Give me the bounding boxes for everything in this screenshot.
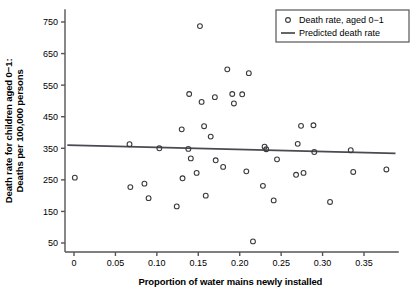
scatter-point bbox=[127, 142, 132, 147]
x-tick-label: 0.25 bbox=[272, 258, 290, 268]
scatter-point bbox=[232, 101, 237, 106]
y-axis-title-line2: Deaths per 100,000 persons bbox=[14, 69, 25, 192]
scatter-point bbox=[311, 123, 316, 128]
x-tick-label: 0 bbox=[71, 258, 76, 268]
x-tick-label: 0.35 bbox=[355, 258, 373, 268]
scatter-point bbox=[179, 127, 184, 132]
y-axis-title-line1: Death rate for children aged 0−1: bbox=[3, 59, 14, 204]
scatter-point bbox=[128, 185, 133, 190]
scatter-point bbox=[146, 196, 151, 201]
scatter-point bbox=[351, 170, 356, 175]
y-tick-label: 250 bbox=[43, 175, 58, 185]
legend-label-death-rate: Death rate, aged 0−1 bbox=[299, 15, 384, 25]
x-tick-label: 0.20 bbox=[231, 258, 249, 268]
scatter-point bbox=[187, 92, 192, 97]
legend-label-predicted-death-rate: Predicted death rate bbox=[299, 28, 380, 38]
scatter-point bbox=[202, 124, 207, 129]
scatter-point bbox=[203, 193, 208, 198]
x-axis-ticks: 00.050.100.150.200.250.300.35 bbox=[71, 252, 372, 268]
scatter-point bbox=[225, 67, 230, 72]
y-tick-label: 750 bbox=[43, 17, 58, 27]
scatter-plot: Death rate for children aged 0−1:Deaths … bbox=[0, 0, 413, 291]
scatter-point bbox=[246, 71, 251, 76]
y-axis-ticks: 50150250350450550650750 bbox=[43, 17, 65, 248]
data-points bbox=[72, 24, 388, 244]
scatter-point bbox=[180, 176, 185, 181]
scatter-point bbox=[174, 204, 179, 209]
scatter-point bbox=[295, 141, 300, 146]
scatter-point bbox=[72, 175, 77, 180]
scatter-point bbox=[221, 165, 226, 170]
x-axis-title-text: Proportion of water mains newly installe… bbox=[138, 276, 322, 287]
y-tick-label: 450 bbox=[43, 112, 58, 122]
scatter-point bbox=[208, 134, 213, 139]
scatter-point bbox=[299, 123, 304, 128]
y-tick-label: 650 bbox=[43, 49, 58, 59]
scatter-point bbox=[199, 99, 204, 104]
scatter-point bbox=[194, 171, 199, 176]
y-tick-label: 350 bbox=[43, 144, 58, 154]
scatter-point bbox=[240, 92, 245, 97]
scatter-point bbox=[271, 198, 276, 203]
scatter-point bbox=[328, 200, 333, 205]
scatter-point bbox=[212, 95, 217, 100]
y-tick-label: 50 bbox=[48, 238, 58, 248]
scatter-point bbox=[188, 156, 193, 161]
scatter-point bbox=[294, 172, 299, 177]
scatter-point bbox=[157, 146, 162, 151]
scatter-point bbox=[213, 158, 218, 163]
scatter-point bbox=[301, 171, 306, 176]
axis-lines bbox=[65, 9, 399, 252]
predicted-death-rate-line bbox=[67, 145, 395, 153]
scatter-point bbox=[198, 24, 203, 29]
y-tick-label: 150 bbox=[43, 207, 58, 217]
x-tick-label: 0.05 bbox=[107, 258, 125, 268]
x-tick-label: 0.15 bbox=[190, 258, 208, 268]
scatter-point bbox=[142, 181, 147, 186]
chart-legend: Death rate, aged 0−1Predicted death rate bbox=[276, 10, 409, 42]
scatter-point bbox=[275, 157, 280, 162]
y-tick-label: 550 bbox=[43, 81, 58, 91]
scatter-point bbox=[261, 183, 266, 188]
scatter-point bbox=[384, 167, 389, 172]
y-axis-title: Death rate for children aged 0−1:Deaths … bbox=[3, 59, 25, 204]
scatter-point bbox=[244, 169, 249, 174]
fit-line-segment bbox=[67, 145, 395, 153]
scatter-point bbox=[251, 239, 256, 244]
x-tick-label: 0.10 bbox=[148, 258, 166, 268]
x-axis-title: Proportion of water mains newly installe… bbox=[138, 276, 322, 287]
x-tick-label: 0.30 bbox=[314, 258, 332, 268]
chart-figure: Death rate for children aged 0−1:Deaths … bbox=[0, 0, 413, 291]
scatter-point bbox=[230, 92, 235, 97]
